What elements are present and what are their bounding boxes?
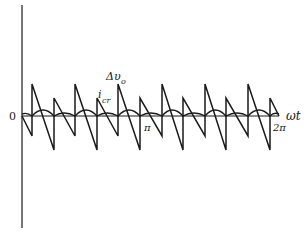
- origin-label: 0: [9, 110, 16, 123]
- waveform-figure: 0 ωt π 2π Δυ o i cr: [0, 0, 308, 239]
- delta-vo-subscript: o: [121, 77, 126, 86]
- icr-subscript: cr: [102, 96, 111, 105]
- x-axis-label: ωt: [286, 109, 301, 123]
- waveform-svg: 0 ωt π 2π Δυ o i cr: [0, 0, 308, 239]
- icr-label: i: [98, 88, 102, 101]
- two-pi-tick-label: 2π: [272, 122, 286, 133]
- delta-vo-label: Δυ: [105, 70, 121, 83]
- delta-vo-sawtooth-curve: [22, 84, 279, 150]
- pi-tick-label: π: [143, 122, 151, 133]
